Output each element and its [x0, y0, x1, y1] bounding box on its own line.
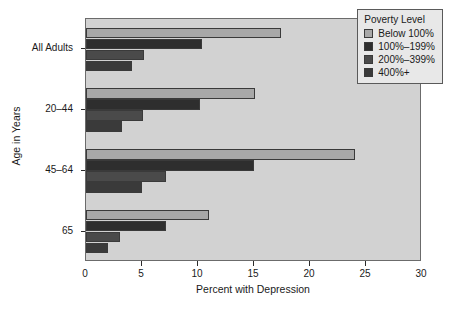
legend-swatch-icon [364, 42, 373, 51]
bar [86, 243, 108, 254]
x-tick-label: 5 [126, 268, 156, 280]
y-tick-label: 65 [0, 225, 73, 236]
bar-group [86, 88, 420, 132]
bar [86, 88, 255, 99]
bar [86, 110, 143, 121]
legend-item[interactable]: 200%–399% [364, 54, 435, 65]
legend-item-label: 400%+ [378, 67, 409, 78]
bar [86, 210, 209, 221]
y-tick-label: 45–64 [0, 164, 73, 175]
bar [86, 149, 355, 160]
bar [86, 221, 166, 232]
bar [86, 160, 254, 171]
bar [86, 99, 200, 110]
legend-items: Below 100%100%–199%200%–399%400%+ [364, 28, 435, 78]
x-tick-mark [309, 261, 310, 266]
legend-item-label: 200%–399% [378, 54, 435, 65]
y-tick-label: 20–44 [0, 103, 73, 114]
y-axis-ticks: All Adults20–4445–6465 [0, 18, 81, 261]
legend-swatch-icon [364, 68, 373, 77]
bar [86, 182, 142, 193]
y-tick-label: All Adults [0, 42, 73, 53]
bar-group [86, 149, 420, 193]
x-tick-mark [197, 261, 198, 266]
legend: Poverty Level Below 100%100%–199%200%–39… [357, 9, 443, 84]
x-tick-label: 10 [182, 268, 212, 280]
legend-item[interactable]: 100%–199% [364, 41, 435, 52]
x-tick-label: 30 [406, 268, 436, 280]
bar [86, 121, 122, 132]
bar [86, 50, 144, 61]
x-tick-label: 20 [294, 268, 324, 280]
x-tick-mark [365, 261, 366, 266]
legend-swatch-icon [364, 55, 373, 64]
bar [86, 171, 166, 182]
depression-by-poverty-level-chart: Age in Years All Adults20–4445–6465 0510… [0, 0, 452, 317]
x-tick-label: 0 [70, 268, 100, 280]
x-tick-label: 15 [238, 268, 268, 280]
x-tick-mark [141, 261, 142, 266]
x-axis-title: Percent with Depression [85, 283, 421, 295]
x-tick-mark [253, 261, 254, 266]
legend-item[interactable]: 400%+ [364, 67, 435, 78]
bar [86, 61, 132, 72]
legend-item-label: Below 100% [378, 28, 434, 39]
x-tick-label: 25 [350, 268, 380, 280]
x-axis-ticks: 051015202530 [85, 261, 421, 285]
legend-swatch-icon [364, 29, 373, 38]
bar [86, 28, 281, 39]
legend-title: Poverty Level [364, 14, 435, 25]
bar [86, 232, 120, 243]
legend-item-label: 100%–199% [378, 41, 435, 52]
legend-item[interactable]: Below 100% [364, 28, 435, 39]
bar-group [86, 210, 420, 254]
bar [86, 39, 202, 50]
